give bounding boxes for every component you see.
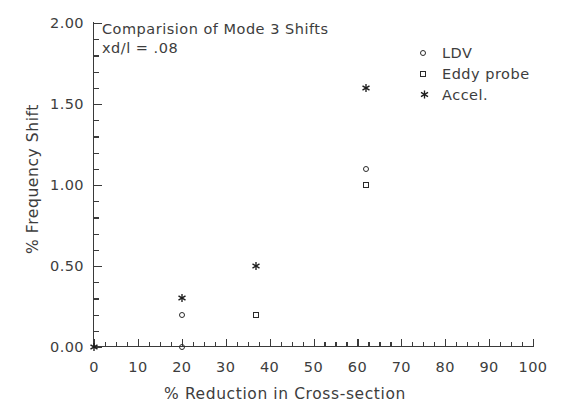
square-marker-icon — [420, 71, 426, 77]
x-tick-label: 60 — [348, 359, 367, 375]
chart-figure: 0102030405060708090100 0.000.501.001.502… — [0, 0, 570, 417]
y-tick-label: 2.00 — [50, 15, 84, 31]
x-tick-label: 20 — [172, 359, 191, 375]
y-tick-label: 0.50 — [50, 258, 84, 274]
x-tick-label: 100 — [519, 359, 548, 375]
x-axis-label: % Reduction in Cross-section — [0, 385, 570, 403]
y-tick-label: 1.00 — [50, 177, 84, 193]
legend-marker-slot — [420, 90, 442, 99]
legend-label: Eddy probe — [442, 66, 530, 82]
y-axis-tick-labels: 0.000.501.001.502.00 — [0, 23, 94, 347]
asterisk-marker-icon — [420, 90, 429, 99]
y-tick-label: 1.50 — [50, 96, 84, 112]
circle-marker-icon — [179, 312, 185, 318]
asterisk-marker-icon — [252, 262, 261, 271]
x-tick-label: 80 — [436, 359, 455, 375]
annotation-line-2: xd/l = .08 — [102, 39, 329, 58]
circle-marker-icon — [420, 50, 426, 56]
legend-marker-slot — [420, 71, 442, 77]
y-tick-label: 0.00 — [50, 339, 84, 355]
x-tick-label: 0 — [89, 359, 99, 375]
legend-entry: Eddy probe — [420, 63, 530, 84]
asterisk-marker-icon — [90, 343, 99, 352]
x-tick-label: 30 — [216, 359, 235, 375]
chart-legend: LDVEddy probeAccel. — [420, 42, 530, 105]
square-marker-icon — [253, 312, 259, 318]
x-tick-label: 50 — [304, 359, 323, 375]
legend-entry: LDV — [420, 42, 530, 63]
legend-marker-slot — [420, 50, 442, 56]
x-tick-label: 10 — [128, 359, 147, 375]
x-axis-major-tick — [533, 339, 534, 347]
x-axis-tick-labels: 0102030405060708090100 — [94, 347, 533, 381]
x-tick-label: 90 — [479, 359, 498, 375]
x-tick-label: 40 — [260, 359, 279, 375]
circle-marker-icon — [179, 344, 185, 350]
legend-label: Accel. — [442, 87, 488, 103]
asterisk-marker-icon — [362, 83, 371, 92]
circle-marker-icon — [363, 166, 369, 172]
x-tick-label: 70 — [392, 359, 411, 375]
chart-annotation: Comparision of Mode 3 Shifts xd/l = .08 — [102, 20, 329, 58]
square-marker-icon — [363, 182, 369, 188]
legend-entry: Accel. — [420, 84, 530, 105]
legend-label: LDV — [442, 45, 472, 61]
asterisk-marker-icon — [177, 294, 186, 303]
y-axis-label: % Frequency Shift — [24, 84, 42, 274]
annotation-line-1: Comparision of Mode 3 Shifts — [102, 20, 329, 39]
